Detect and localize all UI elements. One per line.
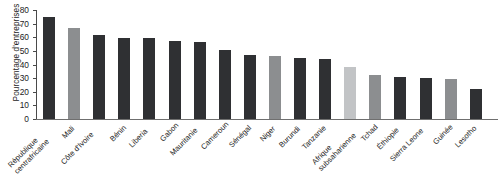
y-tick: 50 (33, 51, 36, 52)
bar (369, 75, 381, 119)
x-axis-line (36, 119, 498, 120)
x-axis-label: République centrafricaine (6, 131, 51, 176)
y-tick: 20 (33, 92, 36, 93)
bar (68, 28, 80, 119)
y-tick: 70 (33, 24, 36, 25)
x-axis-label: Cameroun (199, 120, 231, 152)
bar (445, 79, 457, 119)
bar (143, 38, 155, 119)
x-axis-label: Burundi (277, 124, 302, 149)
bar (319, 59, 331, 119)
bar (344, 67, 356, 119)
y-tick: 40 (33, 65, 36, 66)
y-tick-label: 0 (24, 114, 29, 124)
bar (219, 50, 231, 119)
y-tick-label: 40 (20, 60, 29, 70)
x-axis-label: Guinée (431, 122, 455, 146)
bar (244, 55, 256, 119)
y-tick: 80 (33, 10, 36, 11)
x-axis-label: Mali (60, 124, 76, 140)
y-tick: 30 (33, 78, 36, 79)
bar (169, 41, 181, 119)
bar (420, 78, 432, 119)
bar (470, 89, 482, 119)
y-tick-label: 30 (20, 73, 29, 83)
y-tick-label: 80 (20, 5, 29, 15)
y-tick-label: 70 (20, 19, 29, 29)
y-axis-line (36, 10, 37, 120)
y-tick-label: 50 (20, 46, 29, 56)
y-tick: 0 (33, 119, 36, 120)
y-tick-label: 20 (20, 87, 29, 97)
x-axis-label: Tchad (359, 122, 380, 143)
x-axis-label: Lesotho (453, 123, 479, 149)
bar (43, 17, 55, 119)
bar (294, 58, 306, 119)
bar (194, 42, 206, 119)
plot-area: 01020304050607080 (36, 10, 498, 120)
x-axis-label: Niger (258, 124, 277, 143)
bar (118, 38, 130, 119)
y-tick: 60 (33, 37, 36, 38)
bar-chart: Pourcentage d'entreprises 01020304050607… (0, 0, 501, 189)
bar (269, 56, 281, 119)
x-axis-category-labels: République centrafricaineMaliCôte d'Ivoi… (36, 122, 501, 189)
x-axis-label: Liberia (127, 126, 150, 149)
y-tick: 10 (33, 105, 36, 106)
y-tick-label: 10 (20, 100, 29, 110)
x-axis-label: Gabon (158, 121, 181, 144)
y-tick-label: 60 (20, 32, 29, 42)
bar (93, 35, 105, 119)
bar (394, 77, 406, 119)
x-axis-label: Sénégal (227, 123, 253, 149)
x-axis-label: Bénin (108, 123, 128, 143)
